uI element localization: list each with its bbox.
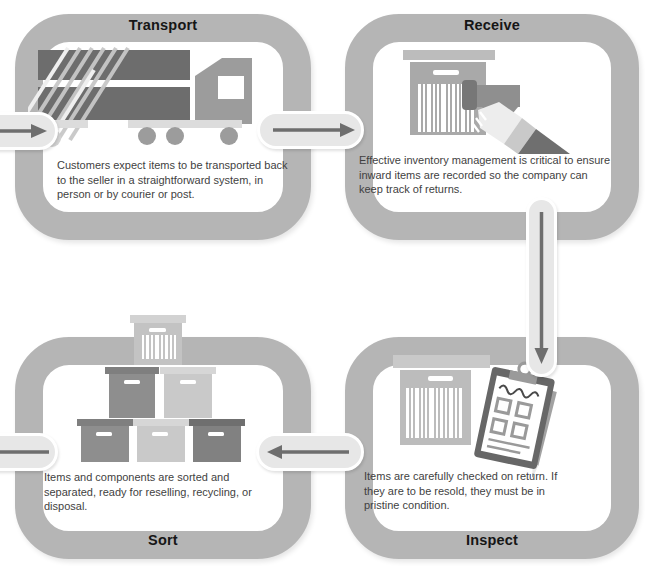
truck-wheel-3 (220, 127, 238, 145)
flow-out-arrow-icon (0, 433, 58, 471)
sort-title: Sort (15, 532, 311, 548)
sort-box-bottom-left (77, 419, 133, 462)
barcode-scanner-box-icon (398, 46, 573, 160)
scanner-head (462, 80, 477, 110)
receive-box-lid (403, 50, 495, 60)
inspect-box-lid (393, 355, 490, 368)
truck-chassis (128, 120, 242, 128)
transport-title: Transport (15, 17, 311, 33)
receive-box-handle (433, 70, 459, 75)
stacked-boxes-icon (72, 312, 252, 466)
sort-box-mid-right (160, 367, 216, 418)
truck-icon (28, 42, 288, 156)
sort-box-bottom-middle (133, 419, 189, 462)
transport-description: Customers expect items to be transported… (57, 158, 297, 202)
inspect-box-handle (428, 376, 453, 381)
sort-description: Items and components are sorted and sepa… (44, 470, 266, 514)
clipboard-checklist-box-icon (388, 350, 588, 494)
truck-wheel-2 (166, 127, 184, 145)
receive-to-inspect-arrow-icon (526, 197, 557, 377)
receive-title: Receive (345, 17, 639, 33)
sort-box-mid-left (105, 367, 159, 418)
inspect-title: Inspect (345, 532, 639, 548)
sort-box-top (130, 315, 186, 365)
truck-chassis-left (55, 120, 88, 128)
flow-in-arrow-icon (0, 112, 58, 150)
truck-cab-window (218, 76, 244, 99)
returns-process-diagram: Transport Receive Sort Inspect Customers… (0, 0, 648, 577)
sort-box-bottom-right (189, 419, 245, 462)
transport-to-receive-arrow-icon (257, 111, 364, 149)
inspect-to-sort-arrow-icon (256, 433, 364, 471)
truck-wheel-1 (138, 127, 156, 145)
